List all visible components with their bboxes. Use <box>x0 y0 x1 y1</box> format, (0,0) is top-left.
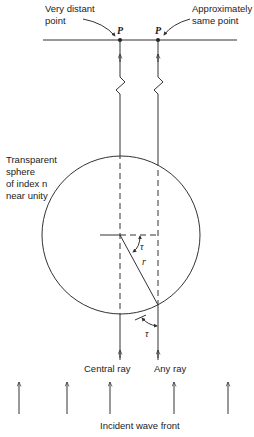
radius-line <box>120 235 158 305</box>
tangent-line <box>135 315 146 320</box>
central-ray-label: Central ray <box>84 363 131 374</box>
sphere-ray-diagram: P P Very distant point Approximately sam… <box>0 0 254 437</box>
same-point-pointer-arrow <box>164 19 190 35</box>
angle-tau-upper-arc <box>133 236 140 252</box>
sphere-label-line2: sphere <box>6 166 35 177</box>
sphere-label-line1: Transparent <box>6 154 57 165</box>
point-p-left-label: P <box>117 25 124 36</box>
sphere-label-line4: near unity <box>6 190 48 201</box>
distant-point-label-line1: Very distant <box>45 3 95 14</box>
angle-tau-lower-label: τ <box>145 328 149 339</box>
same-point-label-line2: same point <box>192 15 239 26</box>
angle-tau-lower-arc <box>142 318 157 326</box>
angle-tau-upper-label: τ <box>140 241 144 252</box>
any-ray-break-zigzag <box>154 77 163 94</box>
distant-point-label-line2: point <box>45 15 66 26</box>
incident-wave-front-label: Incident wave front <box>100 420 180 431</box>
point-p-right-label: P <box>155 25 162 36</box>
any-ray-label: Any ray <box>154 363 186 374</box>
same-point-label-line1: Approximately <box>192 3 252 14</box>
central-ray-break-zigzag <box>116 77 125 94</box>
sphere-label-line3: of index n <box>6 178 47 189</box>
distant-point-pointer-arrow <box>83 19 115 36</box>
radius-r-label: r <box>142 256 146 267</box>
